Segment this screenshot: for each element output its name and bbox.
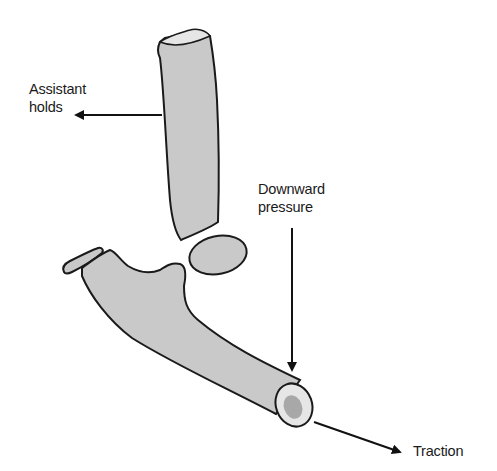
upper-bone-shaft — [158, 29, 219, 240]
traction-arrow — [314, 422, 400, 452]
downward-label-line2: pressure — [258, 198, 325, 216]
lower-bone — [82, 250, 318, 432]
downward-label-line1: Downward — [258, 180, 325, 198]
downward-pressure-label: Downward pressure — [258, 180, 325, 216]
assistant-label-line2: holds — [29, 98, 86, 116]
assistant-holds-label: Assistant holds — [29, 80, 86, 116]
traction-label: Traction — [413, 442, 463, 460]
assistant-label-line1: Assistant — [29, 80, 86, 98]
diagram-graphics — [0, 0, 497, 471]
small-fragment-oval — [186, 230, 251, 279]
diagram-canvas: Assistant holds Downward pressure Tracti… — [0, 0, 497, 471]
